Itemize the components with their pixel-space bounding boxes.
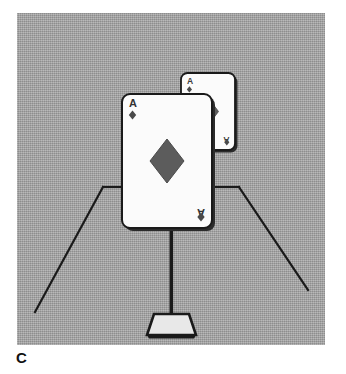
scene-illustration: A A A [17,13,325,345]
right-floor-edge [239,187,308,290]
front-card-corner-rank-top: A [129,97,137,109]
figure-root: A A A [0,0,346,374]
stand-pole [170,225,174,324]
stand-base [147,314,196,335]
front-card-corner-index-bottom: A [197,207,205,222]
left-floor-edge [35,187,103,312]
stand-group [147,225,196,339]
figure-panel-label: C [16,348,27,368]
stand-base-shadow [147,335,196,339]
scene-panel: A A A [17,13,325,345]
back-card-corner-index-bottom: A [223,135,229,146]
front-card: A A [122,94,215,231]
back-card-corner-rank-top: A [187,76,193,86]
